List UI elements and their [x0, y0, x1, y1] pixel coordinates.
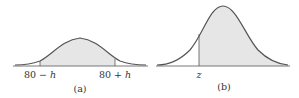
- normal-curve-figure: 80 − h 80 + h (a) z (b): [0, 0, 299, 98]
- panel-b: z (b): [156, 6, 290, 92]
- label-z: z: [195, 69, 202, 80]
- panel-a: 80 − h 80 + h (a): [13, 38, 148, 94]
- shaded-area-a: [15, 38, 146, 66]
- caption-a: (a): [73, 83, 86, 94]
- shaded-area-b: [157, 6, 288, 66]
- label-80-plus-h: 80 + h: [99, 69, 131, 80]
- caption-b: (b): [217, 81, 231, 92]
- label-80-minus-h: 80 − h: [24, 69, 56, 80]
